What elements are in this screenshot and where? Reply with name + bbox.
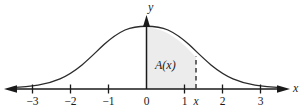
- x-tick-label-two: 2: [212, 95, 234, 107]
- x-tick-label-zero: 0: [136, 95, 158, 107]
- area-function-label: A(x): [155, 59, 176, 72]
- x-axis-label: x: [293, 82, 298, 94]
- x-tick-label-minus2: −2: [60, 95, 82, 107]
- y-axis-arrowhead: [143, 15, 150, 27]
- x-tick-label-minus3: −3: [22, 95, 44, 107]
- x-tick-label-minus1: −1: [98, 95, 120, 107]
- x-tick-label-three: 3: [250, 95, 272, 107]
- x-variable-tick-label: x: [186, 95, 206, 107]
- function-area-figure: −3 −2 −1 0 1 2 3 x x y A(x): [0, 0, 304, 112]
- x-axis-left-arrowhead: [4, 85, 17, 93]
- x-axis-right-arrowhead: [277, 85, 290, 93]
- y-axis-label: y: [148, 1, 153, 13]
